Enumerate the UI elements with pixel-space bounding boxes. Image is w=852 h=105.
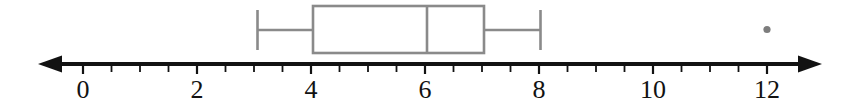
axis-tick-label-4: 4: [305, 75, 318, 104]
boxplot-figure: 0 2 4 6 8 10 12: [0, 0, 852, 104]
axis-tick-label-12: 12: [754, 75, 780, 104]
axis-tick-label-0: 0: [77, 75, 90, 104]
axis-arrow-right-icon: [798, 56, 822, 73]
axis-tick-label-10: 10: [640, 75, 666, 104]
number-line-axis: 0 2 4 6 8 10 12: [38, 56, 822, 105]
axis-tick-label-6: 6: [419, 75, 432, 104]
box-rect: [313, 6, 484, 53]
axis-arrow-left-icon: [38, 56, 62, 73]
box-plot-group: [257, 6, 771, 53]
boxplot-svg: 0 2 4 6 8 10 12: [0, 0, 852, 104]
axis-tick-label-2: 2: [191, 75, 204, 104]
axis-tick-labels: 0 2 4 6 8 10 12: [77, 75, 781, 104]
axis-tick-label-8: 8: [533, 75, 546, 104]
outlier-point: [763, 26, 770, 33]
